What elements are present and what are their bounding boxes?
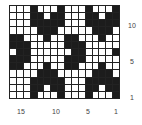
chart-cell: [79, 49, 85, 55]
column-label-1: 1: [114, 108, 118, 115]
chart-cell: [24, 92, 30, 98]
chart-cell: [65, 78, 71, 84]
chart-cell: [99, 35, 105, 41]
chart-cell: [113, 6, 119, 12]
column-label-10: 10: [52, 108, 60, 115]
chart-cell: [17, 20, 23, 26]
chart-cell: [38, 13, 44, 19]
chart-cell: [38, 70, 44, 76]
chart-cell: [58, 49, 64, 55]
chart-cell: [44, 13, 50, 19]
chart-cell: [79, 27, 85, 33]
chart-cell: [93, 85, 99, 91]
chart-cell: [58, 56, 64, 62]
chart-cell: [31, 42, 37, 48]
chart-cell: [106, 27, 112, 33]
chart-cell: [17, 70, 23, 76]
chart-cell: [10, 27, 16, 33]
chart-cell: [72, 70, 78, 76]
chart-cell: [65, 56, 71, 62]
chart-cell: [31, 27, 37, 33]
chart-cell: [86, 6, 92, 12]
chart-cell: [44, 35, 50, 41]
chart-cell: [10, 92, 16, 98]
chart-cell: [38, 63, 44, 69]
chart-cell: [65, 70, 71, 76]
chart-cell: [106, 56, 112, 62]
chart-cell: [44, 70, 50, 76]
chart-cell: [58, 27, 64, 33]
chart-cell: [10, 13, 16, 19]
chart-cell: [113, 20, 119, 26]
chart-cell: [113, 56, 119, 62]
row-label-5: 5: [130, 58, 134, 65]
chart-cell: [38, 49, 44, 55]
chart-cell: [10, 70, 16, 76]
chart-cell: [17, 85, 23, 91]
chart-cell: [106, 6, 112, 12]
chart-cell: [113, 78, 119, 84]
chart-cell: [58, 85, 64, 91]
chart-cell: [17, 49, 23, 55]
chart-cell: [17, 92, 23, 98]
chart-cell: [24, 49, 30, 55]
chart-cell: [106, 63, 112, 69]
chart-cell: [72, 49, 78, 55]
chart-cell: [51, 20, 57, 26]
chart-cell: [113, 70, 119, 76]
chart-cell: [72, 78, 78, 84]
chart-cell: [58, 20, 64, 26]
column-label-15: 15: [17, 108, 25, 115]
chart-cell: [93, 49, 99, 55]
chart-cell: [113, 92, 119, 98]
chart-cell: [79, 63, 85, 69]
chart-cell: [44, 92, 50, 98]
chart-cell: [24, 27, 30, 33]
chart-cell: [86, 13, 92, 19]
chart-cell: [51, 49, 57, 55]
chart-cell: [86, 85, 92, 91]
chart-cell: [10, 63, 16, 69]
chart-cell: [86, 63, 92, 69]
chart-cell: [31, 85, 37, 91]
chart-cell: [65, 35, 71, 41]
chart-cell: [79, 56, 85, 62]
chart-cell: [17, 35, 23, 41]
chart-cell: [72, 56, 78, 62]
chart-cell: [17, 78, 23, 84]
chart-cell: [93, 70, 99, 76]
chart-cell: [106, 49, 112, 55]
chart-cell: [99, 70, 105, 76]
chart-cell: [10, 49, 16, 55]
chart-cell: [65, 20, 71, 26]
chart-cell: [79, 70, 85, 76]
chart-cell: [86, 49, 92, 55]
chart-cell: [51, 63, 57, 69]
chart-cell: [10, 56, 16, 62]
chart-cell: [72, 85, 78, 91]
chart-cell: [99, 42, 105, 48]
chart-cell: [38, 42, 44, 48]
chart-cell: [79, 92, 85, 98]
chart-cell: [38, 92, 44, 98]
chart-cell: [24, 35, 30, 41]
chart-cell: [93, 78, 99, 84]
chart-cell: [24, 20, 30, 26]
chart-cell: [113, 63, 119, 69]
chart-cell: [113, 49, 119, 55]
chart-cell: [65, 63, 71, 69]
chart-cell: [86, 70, 92, 76]
chart-cell: [72, 13, 78, 19]
chart-cell: [113, 27, 119, 33]
chart-cell: [31, 63, 37, 69]
chart-cell: [93, 42, 99, 48]
chart-cell: [58, 13, 64, 19]
chart-cell: [72, 35, 78, 41]
chart-cell: [93, 6, 99, 12]
chart-cell: [86, 27, 92, 33]
chart-cell: [65, 92, 71, 98]
chart-cell: [113, 85, 119, 91]
chart-cell: [51, 6, 57, 12]
chart-cell: [17, 13, 23, 19]
chart-cell: [79, 85, 85, 91]
